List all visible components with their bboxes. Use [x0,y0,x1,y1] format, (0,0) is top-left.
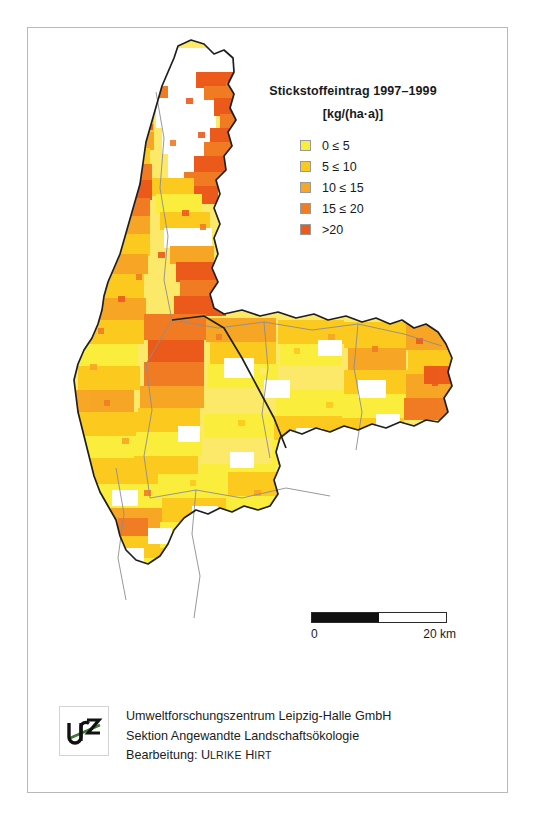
map-legend: Stickstoffeintrag 1997–1999 [kg/(ha·a)] … [228,84,478,240]
legend-swatch-icon [300,140,311,151]
legend-entry: 5 ≤ 10 [300,156,478,177]
ufz-logo-graphic [60,707,108,755]
scalebar-segment-filled [312,613,379,622]
legend-entry-label: >20 [322,223,343,237]
map-figure: Stickstoffeintrag 1997–1999 [kg/(ha·a)] … [0,0,539,823]
credit-author-last-initial: H [245,748,254,762]
credit-author-prefix: Bearbeitung: [126,748,201,762]
scalebar-segment-empty [379,613,446,622]
legend-entry-label: 0 ≤ 5 [322,139,350,153]
credits-text: Umweltforschungszentrum Leipzig-Halle Gm… [126,707,391,766]
credits: Umweltforschungszentrum Leipzig-Halle Gm… [59,706,391,766]
credit-institution: Umweltforschungszentrum Leipzig-Halle Gm… [126,707,391,727]
legend-entry-label: 10 ≤ 15 [322,181,364,195]
legend-swatch-icon [300,161,311,172]
legend-entry: 15 ≤ 20 [300,198,478,219]
legend-entry: 10 ≤ 15 [300,177,478,198]
scalebar-label-max: 20 km [423,627,456,641]
credit-author-last-rest: IRT [254,749,271,761]
legend-swatch-icon [300,182,311,193]
legend-entry-label: 5 ≤ 10 [322,160,357,174]
map-scalebar: 0 20 km [311,612,466,643]
credit-author-first-initial: U [201,748,210,762]
scalebar-label-min: 0 [311,627,318,641]
credit-department: Sektion Angewandte Landschaftsökologie [126,727,391,747]
legend-title: Stickstoffeintrag 1997–1999 [228,84,478,98]
legend-units: [kg/(ha·a)] [228,107,478,121]
scalebar-labels: 0 20 km [311,627,447,643]
credit-author: Bearbeitung: ULRIKE HIRT [126,746,391,766]
credit-author-first-rest: LRIKE [210,749,242,761]
legend-entry: >20 [300,219,478,240]
legend-entry-list: 0 ≤ 5 5 ≤ 10 10 ≤ 15 15 ≤ 20 >20 [300,135,478,240]
legend-swatch-icon [300,203,311,214]
ufz-logo-icon [59,706,109,756]
legend-swatch-icon [300,224,311,235]
legend-entry: 0 ≤ 5 [300,135,478,156]
scalebar-graphic [311,612,447,623]
legend-entry-label: 15 ≤ 20 [322,202,364,216]
